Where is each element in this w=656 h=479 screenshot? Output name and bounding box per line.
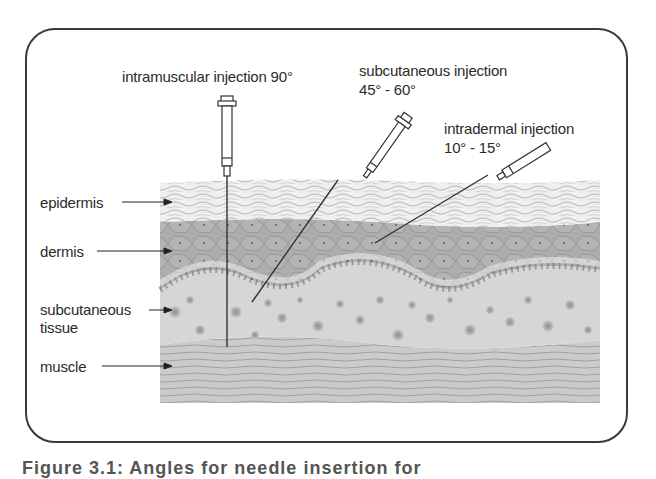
subcutaneous-layer: [160, 262, 600, 349]
dermis-label: dermis: [40, 243, 84, 260]
muscle-label: muscle: [40, 358, 86, 375]
subcutaneous-tissue-label-line2: tissue: [40, 319, 78, 336]
epidermis-label: epidermis: [40, 194, 103, 211]
subcutaneous-angle-label: 45° - 60°: [359, 81, 416, 98]
subcutaneous-injection-label: subcutaneous injection: [359, 62, 507, 79]
intradermal-angle-label: 10° - 15°: [444, 139, 501, 156]
muscle-layer: [160, 337, 600, 403]
intradermal-injection-label: intradermal injection: [444, 120, 574, 137]
intramuscular-injection-label: intramuscular injection 90°: [122, 68, 293, 85]
subcutaneous-tissue-label: subcutaneous: [40, 301, 131, 318]
figure-caption: Figure 3.1: Angles for needle insertion …: [22, 458, 421, 479]
